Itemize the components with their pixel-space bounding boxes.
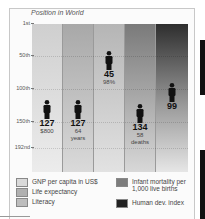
gridline-192 bbox=[32, 148, 188, 149]
legend-item-hdi: Human dev. index bbox=[116, 199, 184, 208]
marker-gnp: 127 $800 bbox=[32, 100, 62, 135]
person-icon bbox=[136, 104, 144, 123]
marker-life-expectancy: 127 64 years bbox=[63, 100, 93, 141]
marker-hdi: 99 bbox=[157, 83, 187, 111]
ytick-100th: 100th bbox=[6, 85, 30, 91]
ytick-192nd: 192nd bbox=[6, 144, 30, 150]
legend-item-literacy: Literacy bbox=[16, 198, 55, 207]
chart-title: Position in World bbox=[31, 9, 84, 16]
legend-item-life-expectancy: Life expectancy bbox=[16, 188, 77, 197]
legend-item-infant-mortality: Infant mortality per 1,000 live births bbox=[116, 178, 186, 192]
divider bbox=[0, 216, 30, 217]
person-icon bbox=[43, 100, 51, 119]
marker-infant-mortality: 134 58 deaths bbox=[125, 104, 155, 145]
person-icon bbox=[168, 83, 176, 102]
column-literacy bbox=[94, 24, 125, 172]
legend-swatch bbox=[116, 199, 128, 208]
person-icon bbox=[105, 51, 113, 70]
person-icon bbox=[74, 100, 82, 119]
column-gnp bbox=[32, 24, 63, 172]
legend-swatch bbox=[16, 188, 28, 197]
legend-swatch bbox=[16, 178, 28, 187]
ytick-50th: 50th bbox=[6, 52, 30, 58]
legend-swatch bbox=[16, 198, 28, 207]
marker-literacy: 45 98% bbox=[94, 51, 124, 86]
legend-swatch bbox=[116, 178, 128, 187]
column-life-expectancy bbox=[63, 24, 94, 172]
ytick-150th: 150th bbox=[6, 118, 30, 124]
ytick-1st: 1st bbox=[6, 20, 30, 26]
edge-bar bbox=[200, 40, 205, 95]
edge-bar bbox=[200, 150, 205, 219]
column-infant-mortality bbox=[125, 24, 156, 172]
legend-item-gnp: GNP per capita in US$ bbox=[16, 178, 98, 187]
